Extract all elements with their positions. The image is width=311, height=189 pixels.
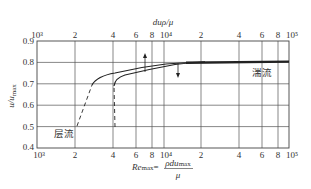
svg-text:10⁵: 10⁵ [286, 150, 298, 160]
svg-text:4: 4 [237, 30, 242, 40]
x-axis-top-label: duρ/μ [153, 17, 174, 27]
arrow-down-icon [176, 63, 180, 78]
x-axis-bottom-label: Remax= ρdumax μ [131, 158, 193, 180]
svg-text:10⁴: 10⁴ [160, 30, 172, 40]
laminar-label: 层流 [54, 128, 74, 139]
svg-text:2: 2 [73, 150, 78, 160]
svg-text:Remax=: Remax= [131, 162, 159, 172]
svg-text:2: 2 [73, 30, 78, 40]
svg-text:6: 6 [134, 150, 139, 160]
grid-vertical [75, 41, 278, 148]
svg-text:μ: μ [175, 170, 181, 180]
laminar-dashed-lower [114, 86, 115, 127]
y-axis-ticks: 0.9 0.8 0.7 0.6 0.5 0.4 [23, 36, 35, 152]
svg-text:2: 2 [199, 150, 204, 160]
svg-text:6: 6 [260, 150, 265, 160]
x-axis-top-ticks: 10³ 2 4 6 8 10⁴ 2 4 6 8 10⁵ [31, 30, 298, 40]
svg-text:ρdumax: ρdumax [164, 158, 191, 168]
svg-text:8: 8 [150, 30, 155, 40]
curve-turbulent-merged [186, 62, 289, 63]
svg-text:4: 4 [237, 150, 242, 160]
svg-text:2: 2 [199, 30, 204, 40]
y-axis-label: u/umax [6, 84, 18, 108]
svg-text:6: 6 [260, 30, 265, 40]
svg-text:0.6: 0.6 [23, 100, 35, 110]
svg-text:10⁵: 10⁵ [286, 30, 298, 40]
svg-text:0.8: 0.8 [23, 57, 35, 67]
svg-text:6: 6 [134, 30, 139, 40]
svg-text:4: 4 [111, 30, 116, 40]
svg-text:4: 4 [111, 150, 116, 160]
svg-text:10³: 10³ [31, 30, 43, 40]
svg-text:8: 8 [276, 30, 281, 40]
curve-upper [92, 62, 205, 85]
curve-lower [114, 62, 205, 86]
svg-text:0.7: 0.7 [23, 79, 35, 89]
svg-text:10³: 10³ [33, 150, 45, 160]
svg-text:8: 8 [150, 150, 155, 160]
svg-text:0.5: 0.5 [23, 122, 35, 132]
velocity-ratio-chart: 0.9 0.8 0.7 0.6 0.5 0.4 u/umax 10³ 2 4 6… [0, 0, 311, 189]
turbulent-label: 湍流 [252, 67, 272, 78]
svg-text:8: 8 [276, 150, 281, 160]
